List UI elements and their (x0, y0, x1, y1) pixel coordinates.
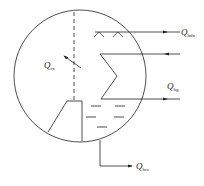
liquid-level-dashes (86, 106, 125, 127)
diagram-canvas (0, 0, 204, 186)
surface-wave-marks (94, 32, 123, 37)
vessel-circle (14, 10, 146, 142)
label-q-hdx: Qhdx (181, 28, 195, 38)
radiation-arrow-icon (64, 56, 81, 68)
hopper (48, 101, 82, 141)
label-q-hg: Qhg (167, 82, 179, 92)
outlet-pipe (100, 140, 132, 166)
heat-exchange-coil (100, 54, 180, 99)
label-q-hrs: Qhrs (136, 162, 149, 172)
label-q-rx: Qrx (44, 61, 55, 71)
